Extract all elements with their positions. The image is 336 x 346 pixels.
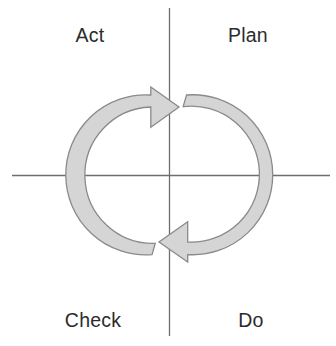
quadrant-label-check: Check	[65, 309, 121, 331]
quadrant-label-act: Act	[76, 24, 105, 46]
pdca-diagram: Act Plan Check Do	[0, 0, 336, 346]
quadrant-label-plan: Plan	[228, 24, 268, 46]
diagram-canvas: Act Plan Check Do	[0, 0, 336, 346]
quadrant-label-do: Do	[238, 309, 263, 331]
canvas-background	[0, 0, 336, 346]
